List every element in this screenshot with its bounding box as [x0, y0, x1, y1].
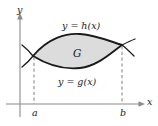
- upper-curve-left-tail: [22, 56, 33, 67]
- lower-curve-label: y = g(x): [58, 77, 96, 87]
- lower-curve-right-tail: [122, 45, 134, 56]
- x-tick-label-b: b: [120, 108, 126, 118]
- x-tick-label-a: a: [32, 108, 38, 118]
- x-axis-label: x: [147, 97, 152, 107]
- x-axis-arrowhead-icon: [139, 101, 146, 107]
- upper-curve-label: y = h(x): [62, 21, 100, 31]
- lower-curve-left-tail: [22, 45, 33, 56]
- y-axis-label: y: [17, 5, 22, 15]
- figure-area-between-curves: y = h(x) y = g(x) G y x a b: [0, 0, 158, 126]
- figure-canvas: [0, 0, 158, 126]
- region-label-g: G: [73, 48, 81, 59]
- upper-curve-right-tail: [122, 39, 135, 45]
